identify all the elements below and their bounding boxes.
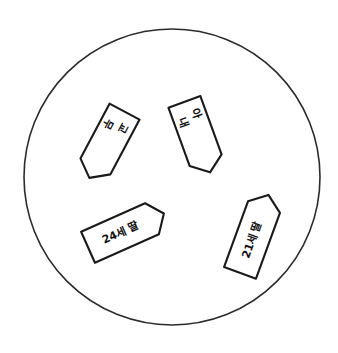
family-constellation-diagram: 교 무 아 내 24세 딸 21세 딸 [0, 0, 338, 353]
diagram-canvas: 교 무 아 내 24세 딸 21세 딸 [0, 0, 338, 353]
family-boundary-circle [24, 29, 320, 325]
